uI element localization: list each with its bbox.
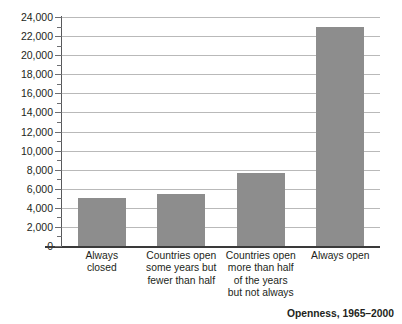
- y-axis-minor-tick: [57, 103, 62, 104]
- y-axis-minor-tick: [57, 198, 62, 199]
- y-axis-tick: [55, 112, 62, 113]
- x-axis-line: [45, 246, 380, 248]
- y-axis-tick: [55, 36, 62, 37]
- bar: [78, 198, 126, 246]
- y-axis-tick-label: 4,000: [1, 202, 53, 214]
- y-axis-minor-tick: [57, 179, 62, 180]
- y-axis-tick: [55, 17, 62, 18]
- y-axis-tick-label: 2,000: [1, 221, 53, 233]
- y-axis-tick-label: 16,000: [1, 87, 53, 99]
- x-axis-category-label: Always open: [291, 250, 390, 262]
- y-axis-minor-tick: [57, 122, 62, 123]
- y-axis-tick-label: 8,000: [1, 164, 53, 176]
- y-axis-minor-tick: [57, 236, 62, 237]
- y-axis-tick-label: 20,000: [1, 49, 53, 61]
- y-axis-minor-tick: [57, 84, 62, 85]
- y-axis-tick-label: 14,000: [1, 106, 53, 118]
- y-axis-minor-tick: [57, 46, 62, 47]
- y-axis-tick: [55, 132, 62, 133]
- y-axis-tick-label: 12,000: [1, 126, 53, 138]
- y-axis-tick-label: 10,000: [1, 145, 53, 157]
- gridline: [62, 17, 380, 18]
- y-axis-labels: 02,0004,0006,0008,00010,00012,00014,0001…: [0, 0, 53, 324]
- y-axis-minor-tick: [57, 27, 62, 28]
- y-axis-tick: [55, 93, 62, 94]
- plot-area: [62, 17, 380, 246]
- bar: [237, 173, 285, 246]
- y-axis-minor-tick: [57, 160, 62, 161]
- y-axis-minor-tick: [57, 141, 62, 142]
- y-axis-tick: [55, 246, 62, 247]
- chart-caption: Openness, 1965–2000: [287, 308, 394, 319]
- y-axis-tick-label: 6,000: [1, 183, 53, 195]
- y-axis-tick-label: 24,000: [1, 11, 53, 23]
- bar: [157, 194, 205, 246]
- y-axis-tick: [55, 208, 62, 209]
- x-axis-labels: AlwaysclosedCountries opensome years but…: [62, 250, 380, 310]
- y-axis-tick: [55, 227, 62, 228]
- y-axis-minor-tick: [57, 65, 62, 66]
- y-axis-minor-tick: [57, 217, 62, 218]
- y-axis-tick: [55, 55, 62, 56]
- y-axis-tick: [55, 189, 62, 190]
- bar: [316, 27, 364, 246]
- y-axis-tick: [55, 74, 62, 75]
- bar-chart: 02,0004,0006,0008,00010,00012,00014,0001…: [0, 0, 402, 324]
- y-axis-tick: [55, 151, 62, 152]
- y-axis-tick: [55, 170, 62, 171]
- y-axis-tick-label: 18,000: [1, 68, 53, 80]
- y-axis-tick-label: 22,000: [1, 30, 53, 42]
